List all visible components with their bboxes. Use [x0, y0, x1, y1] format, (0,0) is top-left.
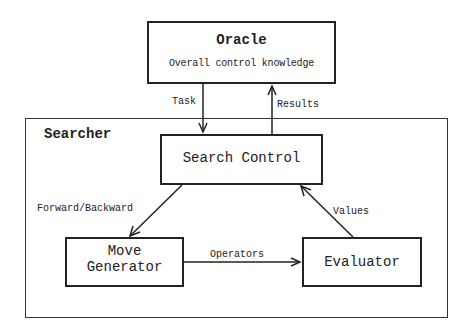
edge-label-operators: Operators [210, 249, 264, 260]
diagram-canvas: Searcher Oracle Overall control knowledg… [0, 0, 470, 333]
edge-label-results: Results [277, 99, 319, 110]
connector-arrows [0, 0, 470, 333]
edge-label-task: Task [172, 96, 196, 107]
edge-label-forward-backward: Forward/Backward [37, 203, 133, 214]
edge-label-values: Values [333, 206, 369, 217]
